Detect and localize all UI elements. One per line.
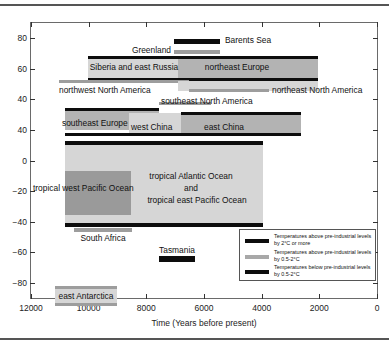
legend-label-above-2c: Temperatures above pre-industrial levels… [274, 233, 374, 246]
label-northeast-europe: northeast Europe [205, 62, 269, 72]
x-tick-label: 12000 [19, 303, 43, 313]
band-east-china-top-rule [181, 112, 301, 115]
x-tick-label: 2000 [310, 303, 329, 313]
label-tropical-west-pacific: tropical west Pacific Ocean [33, 183, 134, 193]
label-east-china: east China [204, 122, 244, 132]
label-southeast-europe: southeast Europe [62, 118, 128, 128]
band-greenland [174, 50, 220, 54]
x-tick-mark-top [377, 22, 378, 27]
label-east-antarctica: east Antarctica [59, 291, 114, 301]
y-tick-label: 0 [22, 156, 27, 166]
label-tropical-atlantic-line1: tropical Atlantic Ocean [149, 171, 232, 181]
legend-swatch-above-2c [245, 239, 269, 243]
y-tick-label: −20 [13, 186, 27, 196]
band-south-africa [74, 228, 132, 232]
y-tick-label: −60 [13, 247, 27, 257]
label-greenland: Greenland [132, 45, 171, 55]
x-axis-title: Time (Years before present) [151, 318, 256, 328]
page-rule-top [0, 4, 389, 6]
legend-item-above-05-2c: Temperatures above pre-industrial levels… [245, 250, 373, 265]
band-southeast-europe-top-rule [65, 108, 159, 111]
label-tropical-atlantic-line3: tropical east Pacific Ocean [147, 195, 246, 205]
band-tasmania [159, 256, 195, 262]
x-tick-label: 0 [375, 303, 380, 313]
label-tropical-atlantic-line2: and [184, 183, 198, 193]
label-tasmania: Tasmania [159, 245, 195, 255]
page-rule-bottom [0, 338, 389, 340]
label-southeast-north-america: southeast North America [161, 96, 253, 106]
band-northeast-north-america [189, 89, 269, 92]
band-tropical-bottom-rule [65, 223, 263, 227]
y-tick-label: −40 [13, 217, 27, 227]
y-tick-label: −80 [13, 278, 27, 288]
x-tick-label: 8000 [137, 303, 156, 313]
label-south-africa: South Africa [80, 233, 125, 243]
band-east-antarctica-bottom-rule [55, 303, 117, 306]
band-siberia-top-rule [88, 56, 318, 59]
band-mid-latitude-bottom-rule [65, 133, 301, 136]
legend-swatch-above-05-2c [245, 255, 269, 259]
legend-item-above-2c: Temperatures above pre-industrial levels… [245, 234, 373, 249]
label-siberia-east-russia: Siberia and east Russia [90, 62, 178, 72]
holocene-warmth-chart: Latitude (degrees) 806040400−20−40−60−80… [0, 0, 389, 354]
legend-item-below-05-2c: Temperatures below pre-industrial levels… [245, 265, 373, 280]
label-northwest-north-america: northwest North America [59, 85, 151, 95]
legend-swatch-below-05-2c [245, 270, 269, 274]
band-barents-sea [174, 39, 220, 44]
y-tick-label: 40 [18, 125, 27, 135]
label-west-china: west China [131, 122, 172, 132]
band-east-antarctica-top-rule [55, 286, 117, 289]
label-northeast-north-america: northeast North America [272, 85, 362, 95]
label-barents-sea: Barents Sea [225, 35, 271, 45]
x-tick-mark-bottom [377, 294, 378, 299]
y-axis-title-wrap: Latitude (degrees) [12, 0, 13, 354]
band-tropical-west-pacific-fill [65, 171, 131, 215]
band-tropical-top-rule [65, 141, 263, 145]
y-tick-label: 40 [18, 94, 27, 104]
x-tick-label: 4000 [252, 303, 271, 313]
y-tick-label: 80 [18, 33, 27, 43]
x-tick-label: 6000 [195, 303, 214, 313]
legend-label-above-05-2c: Temperatures above pre-industrial levels… [274, 249, 374, 262]
legend: Temperatures above pre-industrial levels… [239, 229, 376, 281]
y-tick-label: 60 [18, 64, 27, 74]
band-northwest-north-america [59, 80, 189, 83]
legend-label-below-05-2c: Temperatures below pre-industrial levels… [274, 264, 374, 277]
